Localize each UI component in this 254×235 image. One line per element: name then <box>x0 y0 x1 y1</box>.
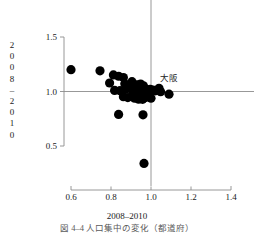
data-point <box>66 65 75 74</box>
data-point <box>114 110 123 119</box>
data-point <box>138 110 147 119</box>
x-axis-title: 2008–2010 <box>107 211 148 221</box>
caption-text: 図 4–4 人口集中の変化（都道府） <box>60 223 194 233</box>
y-axis-tick-label: 0.5 <box>46 141 58 151</box>
chart-background <box>0 0 254 235</box>
y-axis-title-char: 0 <box>10 130 15 140</box>
y-axis-title-char: 2 <box>10 96 15 106</box>
y-axis-title: 2008–2010 <box>9 40 15 140</box>
data-point <box>146 94 155 103</box>
x-axis-tick-label: 0.8 <box>105 192 117 202</box>
figure-caption-clipped: 図 4–4 人口集中の変化（都道府） <box>0 222 254 235</box>
data-point <box>139 159 148 168</box>
x-axis-tick-label: 1.0 <box>145 192 157 202</box>
y-axis-tick-label: 1.5 <box>46 32 58 42</box>
data-point <box>95 66 104 75</box>
x-axis-tick-label: 1.4 <box>225 192 237 202</box>
scatter-chart: 0.60.81.01.21.4 0.51.01.5 大阪 2008–2010 2… <box>0 0 254 235</box>
chart-canvas: 0.60.81.01.21.4 0.51.01.5 大阪 2008–2010 2… <box>0 0 254 235</box>
data-point <box>156 87 165 96</box>
y-axis-title-char: 0 <box>10 107 15 117</box>
y-axis-tick-label: 1.0 <box>46 87 58 97</box>
y-axis-title-char: 0 <box>10 51 15 61</box>
x-axis-tick-label: 0.6 <box>65 192 77 202</box>
data-point <box>164 90 173 99</box>
y-axis-title-char: 2 <box>10 40 15 50</box>
annotation-label-osaka: 大阪 <box>160 73 178 83</box>
y-axis-title-char: 0 <box>10 62 15 72</box>
y-axis-title-char: 1 <box>10 118 15 128</box>
point-annotations: 大阪 <box>160 73 178 83</box>
y-axis-title-char: – <box>9 85 15 95</box>
y-axis-title-char: 8 <box>10 74 15 84</box>
x-axis-tick-label: 1.2 <box>185 192 196 202</box>
